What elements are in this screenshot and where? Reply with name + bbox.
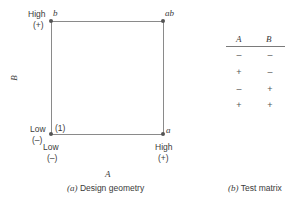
matrix-header-a: A: [236, 34, 242, 44]
b-high-sign: (+): [33, 20, 44, 30]
corner-point-a: [161, 132, 165, 136]
a-low-label: Low: [43, 142, 59, 152]
a-low-sign: (–): [47, 153, 57, 163]
matrix-cell: +: [263, 100, 277, 110]
matrix-cell: +: [232, 100, 246, 110]
a-high-label: High: [155, 142, 172, 152]
matrix-cell: –: [232, 50, 246, 60]
matrix-cell: +: [263, 84, 277, 94]
matrix-cell: –: [263, 67, 277, 77]
square-left-edge: [51, 21, 52, 135]
matrix-cell: –: [263, 50, 277, 60]
caption-design-geometry: (a) Design geometry: [67, 183, 144, 193]
corner-label-b: b: [53, 8, 58, 18]
square-right-edge: [163, 21, 164, 135]
a-axis-label: A: [105, 169, 111, 179]
a-high-sign: (+): [158, 153, 169, 163]
b-axis-label: B: [9, 75, 19, 81]
b-high-label: High: [28, 9, 45, 19]
corner-label-a: a: [166, 125, 171, 135]
caption-test-matrix: (b) Test matrix: [228, 183, 282, 193]
corner-label-1: (1): [55, 123, 65, 133]
corner-point-b: [49, 19, 53, 23]
corner-point-1: [49, 132, 53, 136]
caption-a-prefix: (a): [67, 183, 78, 193]
caption-b-text: Test matrix: [241, 183, 282, 193]
matrix-cell: –: [232, 84, 246, 94]
caption-a-text: Design geometry: [80, 183, 144, 193]
square-bottom-edge: [51, 134, 164, 135]
caption-b-prefix: (b): [228, 183, 239, 193]
matrix-header-b: B: [266, 34, 272, 44]
b-low-label: Low: [30, 124, 46, 134]
b-low-sign: (–): [32, 135, 42, 145]
square-top-edge: [51, 21, 164, 22]
matrix-header-rule: [226, 46, 285, 47]
matrix-cell: +: [232, 67, 246, 77]
corner-label-ab: ab: [165, 8, 174, 18]
corner-point-ab: [161, 19, 165, 23]
